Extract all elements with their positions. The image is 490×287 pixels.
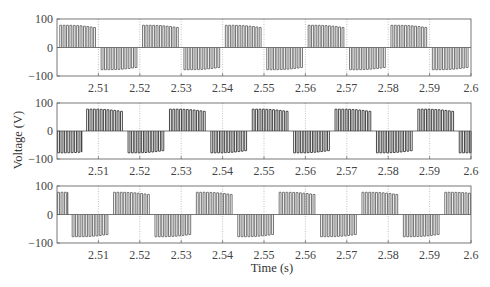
x-tick-label: 2.52: [129, 164, 150, 178]
x-tick-label: 2.52: [129, 248, 150, 262]
three-phase-voltage-chart: 1000−1002.512.522.532.542.552.562.572.58…: [0, 0, 490, 287]
y-tick-label: 0: [47, 41, 53, 55]
x-tick-label: 2.51: [88, 164, 109, 178]
x-axis-label: Time (s): [251, 261, 293, 275]
y-axis-label: Voltage (V): [11, 111, 25, 169]
y-tick-label: 0: [47, 208, 53, 222]
x-tick-label: 2.56: [295, 248, 316, 262]
y-tick-label: 100: [35, 96, 53, 110]
x-tick-label: 2.53: [171, 248, 192, 262]
panel-2: 1000−1002.512.522.532.542.552.562.572.58…: [28, 96, 478, 178]
x-tick-label: 2.52: [129, 81, 150, 95]
x-tick-label: 2.58: [378, 248, 399, 262]
x-tick-label: 2.57: [336, 81, 357, 95]
x-tick-label: 2.59: [419, 248, 440, 262]
x-tick-label: 2.58: [378, 164, 399, 178]
x-tick-label: 2.6: [464, 81, 479, 95]
x-tick-label: 2.58: [378, 81, 399, 95]
y-tick-label: 0: [47, 124, 53, 138]
x-tick-label: 2.57: [336, 248, 357, 262]
x-tick-label: 2.55: [254, 248, 275, 262]
x-tick-label: 2.51: [88, 248, 109, 262]
y-tick-label: 100: [35, 12, 53, 26]
x-tick-label: 2.56: [295, 164, 316, 178]
chart-panels: 1000−1002.512.522.532.542.552.562.572.58…: [28, 12, 478, 262]
y-tick-label: −100: [28, 236, 53, 250]
panel-1: 1000−1002.512.522.532.542.552.562.572.58…: [28, 12, 478, 95]
panel-3: 1000−1002.512.522.532.542.552.562.572.58…: [28, 179, 478, 262]
x-tick-label: 2.59: [419, 81, 440, 95]
y-tick-label: −100: [28, 69, 53, 83]
x-tick-label: 2.51: [88, 81, 109, 95]
x-tick-label: 2.59: [419, 164, 440, 178]
x-tick-label: 2.55: [254, 81, 275, 95]
x-tick-label: 2.54: [212, 248, 233, 262]
x-tick-label: 2.57: [336, 164, 357, 178]
y-tick-label: −100: [28, 152, 53, 166]
y-tick-label: 100: [35, 179, 53, 193]
x-tick-label: 2.56: [295, 81, 316, 95]
x-tick-label: 2.54: [212, 81, 233, 95]
x-tick-label: 2.6: [464, 248, 479, 262]
x-tick-label: 2.53: [171, 164, 192, 178]
x-tick-label: 2.53: [171, 81, 192, 95]
x-tick-label: 2.54: [212, 164, 233, 178]
x-tick-label: 2.6: [464, 164, 479, 178]
x-tick-label: 2.55: [254, 164, 275, 178]
